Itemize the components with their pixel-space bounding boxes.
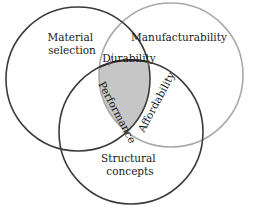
venn-diagram: Material selection Manufacturability Dur… [0,0,255,211]
label-durability: Durability [102,52,155,64]
label-structural-concepts: Structural concepts [101,152,159,177]
label-material-selection: Material selection [48,31,97,56]
label-manufacturability: Manufacturability [131,31,227,43]
